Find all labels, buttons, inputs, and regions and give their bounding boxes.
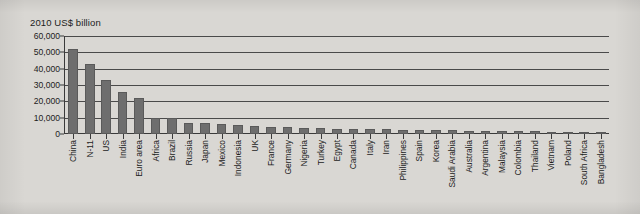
x-axis-tick (230, 134, 246, 139)
x-axis-tick-label: N-11 (86, 140, 94, 158)
x-axis-label-slot: Nigeria (296, 140, 312, 210)
bar (233, 125, 243, 134)
x-axis-tick-label: Philippines (399, 140, 407, 181)
x-axis-tick-mark (106, 134, 107, 139)
bar-slot (560, 36, 576, 134)
x-axis-label-slot: Saudi Arabia (444, 140, 460, 210)
x-axis-label-slot: Egypt (329, 140, 345, 210)
x-axis-label-slot: Mexico (213, 140, 229, 210)
x-axis-tick (98, 134, 114, 139)
x-axis-tick-label: India (118, 140, 126, 158)
bar-slot (180, 36, 196, 134)
x-axis-tick-label: Saudi Arabia (448, 140, 456, 188)
bar-slot (230, 36, 246, 134)
x-axis-tick (461, 134, 477, 139)
x-axis-label-slot: Bangladesh (593, 140, 609, 210)
x-axis-tick-mark (551, 134, 552, 139)
bar-slot (147, 36, 163, 134)
x-axis-label-slot: Vietnam (543, 140, 559, 210)
x-axis-tick-mark (222, 134, 223, 139)
x-axis-tick-mark (502, 134, 503, 139)
y-axis: 010,00020,00030,00040,00050,00060,000 (0, 36, 60, 134)
x-axis-tick (164, 134, 180, 139)
x-axis-label-slot: Colombia (510, 140, 526, 210)
bar (266, 127, 276, 134)
bar-slot (494, 36, 510, 134)
bar-slot (279, 36, 295, 134)
x-axis-tick-mark (518, 134, 519, 139)
bar-slot (428, 36, 444, 134)
bar-slot (312, 36, 328, 134)
x-axis-label-slot: Brazil (164, 140, 180, 210)
bar-slot (246, 36, 262, 134)
bar (68, 49, 78, 134)
x-axis-tick-mark (288, 134, 289, 139)
x-axis-label-slot: US (98, 140, 114, 210)
x-axis-label-slot: Africa (147, 140, 163, 210)
x-axis-tick-mark (535, 134, 536, 139)
x-axis-tick-mark (172, 134, 173, 139)
x-axis-label-slot: Thailand (527, 140, 543, 210)
x-axis-tick (246, 134, 262, 139)
x-axis-label-slot: Turkey (312, 140, 328, 210)
x-axis-tick (213, 134, 229, 139)
x-axis-tick-label: Germany (283, 140, 291, 174)
bar-slot (197, 36, 213, 134)
x-axis-tick (296, 134, 312, 139)
x-axis-tick-label: Euro area (135, 140, 143, 177)
x-axis-tick-mark (584, 134, 585, 139)
x-axis-label-slot: Italy (362, 140, 378, 210)
x-axis-label-slot: Euro area (131, 140, 147, 210)
bars-container (65, 36, 609, 134)
x-axis-tick-mark (321, 134, 322, 139)
bar (200, 123, 210, 134)
chart-title: 2010 US$ billion (30, 17, 101, 28)
bar-slot (461, 36, 477, 134)
x-axis-tick (395, 134, 411, 139)
x-axis-label-slot: UK (246, 140, 262, 210)
bar-slot (329, 36, 345, 134)
x-axis-tick (576, 134, 592, 139)
bar-slot (362, 36, 378, 134)
x-axis-tick-mark (601, 134, 602, 139)
x-axis-tick (560, 134, 576, 139)
bar-slot (378, 36, 394, 134)
x-axis-tick-label: Mexico (217, 140, 225, 167)
x-axis-tick-label: Poland (564, 140, 572, 166)
x-axis-tick-label: Egypt (333, 140, 341, 161)
x-axis-tick-label: France (267, 140, 275, 166)
x-axis-label-slot: Spain (411, 140, 427, 210)
x-axis-tick-label: Russia (184, 140, 192, 166)
bar-chart: 2010 US$ billion 010,00020,00030,00040,0… (0, 0, 640, 214)
bar-slot (444, 36, 460, 134)
bar-slot (263, 36, 279, 134)
x-axis-tick-label: Turkey (316, 140, 324, 165)
x-axis-tick-mark (73, 134, 74, 139)
x-axis-tick-label: Colombia (514, 140, 522, 175)
x-axis-tick-label: Japan (201, 140, 209, 163)
x-axis-tick-label: Africa (151, 140, 159, 161)
x-axis-label-slot: Philippines (395, 140, 411, 210)
x-axis-tick (131, 134, 147, 139)
bar-slot (411, 36, 427, 134)
x-axis-tick-mark (337, 134, 338, 139)
y-axis-tick-label: 50,000 (34, 47, 60, 57)
y-axis-tick-label: 30,000 (34, 80, 60, 90)
x-axis-tick-label: South Africa (580, 140, 588, 185)
x-axis-ticks (65, 134, 609, 139)
x-axis-tick-mark (469, 134, 470, 139)
x-axis-tick-mark (156, 134, 157, 139)
x-axis-tick (329, 134, 345, 139)
x-axis-tick-mark (386, 134, 387, 139)
x-axis-tick-mark (436, 134, 437, 139)
x-axis-tick (428, 134, 444, 139)
y-axis-tick-label: 10,000 (34, 113, 60, 123)
x-axis-label-slot: Germany (279, 140, 295, 210)
x-axis-tick-mark (403, 134, 404, 139)
bar (250, 126, 260, 134)
x-axis-tick-label: UK (250, 140, 258, 152)
x-axis-tick (378, 134, 394, 139)
x-axis-tick (444, 134, 460, 139)
x-axis-tick-mark (485, 134, 486, 139)
bar (118, 92, 128, 134)
